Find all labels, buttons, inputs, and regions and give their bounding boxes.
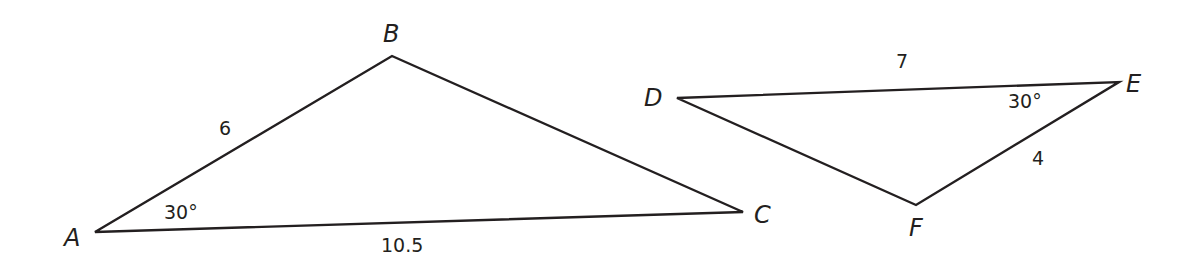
- vertex-label-b: B: [383, 20, 399, 48]
- side-length-de: 7: [896, 50, 908, 72]
- vertex-label-e: E: [1126, 70, 1142, 98]
- triangle-def-outline: [677, 82, 1119, 205]
- vertex-label-d: D: [644, 84, 662, 112]
- triangle-abc: A B C 6 10.5 30°: [62, 20, 771, 256]
- diagram-svg: A B C 6 10.5 30° D E F 7 4 30°: [0, 0, 1179, 266]
- angle-label-e: 30°: [1008, 90, 1042, 112]
- similar-triangles-diagram: A B C 6 10.5 30° D E F 7 4 30°: [0, 0, 1179, 266]
- vertex-label-a: A: [62, 224, 80, 252]
- side-length-ab: 6: [219, 117, 231, 139]
- vertex-label-f: F: [909, 214, 924, 242]
- angle-label-a: 30°: [164, 201, 198, 223]
- side-length-ac: 10.5: [381, 234, 423, 256]
- side-length-ef: 4: [1032, 147, 1044, 169]
- vertex-label-c: C: [754, 201, 771, 229]
